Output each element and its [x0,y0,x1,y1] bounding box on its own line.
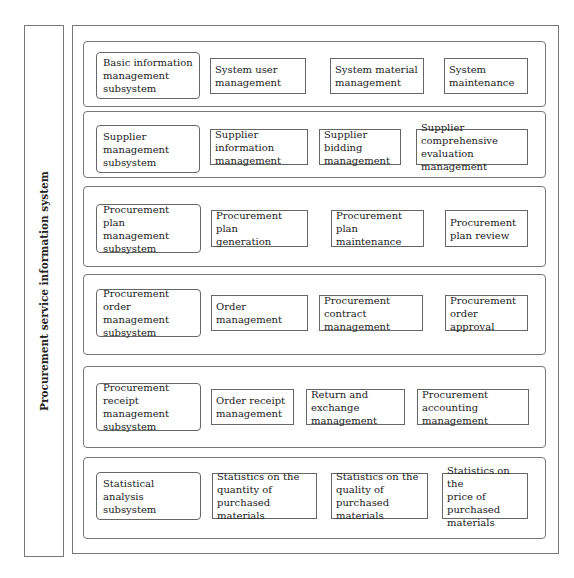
module-box: System user management [210,58,306,94]
module-label: System maintenance [449,63,514,89]
subsystem-box: Procurement order management subsystem [96,289,201,337]
module-box: Procurement accounting management [417,389,529,425]
module-label: Procurement contract management [324,294,418,333]
module-box: Procurement plan review [445,210,528,247]
module-box: System material management [330,58,424,94]
subsystem-label: Supplier management subsystem [103,130,193,169]
module-box: Statistics on the quality of purchased m… [331,473,428,519]
module-box: Procurement plan maintenance [331,210,424,247]
subsystem-label: Procurement order management subsystem [103,287,194,339]
module-box: Supplier bidding management [319,129,401,165]
module-label: Procurement order approval [450,294,523,333]
subsystem-box: Basic information management subsystem [96,52,200,99]
system-title-box: Procurement service information system [24,25,64,557]
subsystem-box: Statistical analysis subsystem [96,472,201,520]
module-box: Statistics on the price of purchased mat… [442,473,528,519]
module-label: Procurement plan generation [216,209,303,248]
module-box: Statistics on the quantity of purchased … [212,473,317,519]
module-box: Supplier comprehensive evaluation manage… [416,129,528,165]
module-label: Procurement plan maintenance [336,209,419,248]
module-box: Procurement order approval [445,295,528,331]
module-box: Procurement contract management [319,295,423,331]
module-label: System material management [335,63,418,89]
module-box: Return and exchange management [306,389,405,425]
module-label: Supplier comprehensive evaluation manage… [421,121,523,173]
subsystem-label: Basic information management subsystem [103,56,193,95]
module-label: Statistics on the quantity of purchased … [217,470,312,522]
module-box: System maintenance [444,58,528,94]
subsystem-box: Procurement receipt management subsystem [96,383,201,431]
module-label: Return and exchange management [311,388,400,427]
module-label: Procurement plan review [450,216,516,242]
subsystem-box: Supplier management subsystem [96,125,200,173]
subsystem-label: Procurement receipt management subsystem [103,381,194,433]
subsystem-label: Procurement plan management subsystem [103,203,194,255]
module-label: Statistics on the price of purchased mat… [447,464,523,529]
module-box: Order receipt management [211,389,294,425]
module-box: Order management [211,295,308,331]
system-title: Procurement service information system [38,171,50,411]
module-label: Procurement accounting management [422,388,524,427]
module-box: Supplier information management [210,129,308,165]
module-label: Order receipt management [216,394,285,420]
module-label: Statistics on the quality of purchased m… [336,470,423,522]
module-label: Supplier information management [215,128,303,167]
module-label: Order management [216,300,303,326]
module-label: System user management [215,63,281,89]
module-box: Procurement plan generation [211,210,308,247]
subsystem-label: Statistical analysis subsystem [103,477,194,516]
module-label: Supplier bidding management [324,128,396,167]
subsystem-box: Procurement plan management subsystem [96,204,201,253]
